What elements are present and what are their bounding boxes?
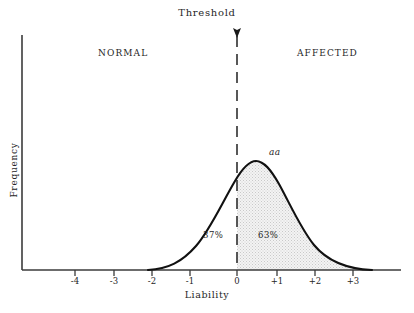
x-tick-label: -2	[137, 276, 167, 286]
y-axis-title: Frequency	[9, 135, 19, 205]
x-tick-label: 0	[222, 276, 252, 286]
x-tick-label: +1	[262, 276, 292, 286]
x-tick-label: +2	[300, 276, 330, 286]
x-tick-label: -3	[99, 276, 129, 286]
threshold-label: Threshold	[0, 7, 414, 18]
x-tick-label: -1	[175, 276, 205, 286]
x-tick-label: -4	[60, 276, 90, 286]
genotype-aa-label: aa	[269, 147, 280, 157]
threshold-arrow-icon	[233, 28, 241, 38]
affected-region-label: AFFECTED	[297, 48, 358, 58]
liability-threshold-chart	[0, 0, 414, 313]
shaded-affected-area	[148, 161, 372, 270]
percent-unaffected-label: 37%	[203, 230, 223, 240]
x-axis-title: Liability	[0, 289, 414, 300]
x-tick-label: +3	[338, 276, 368, 286]
percent-affected-label: 63%	[258, 230, 278, 240]
normal-region-label: NORMAL	[98, 48, 148, 58]
